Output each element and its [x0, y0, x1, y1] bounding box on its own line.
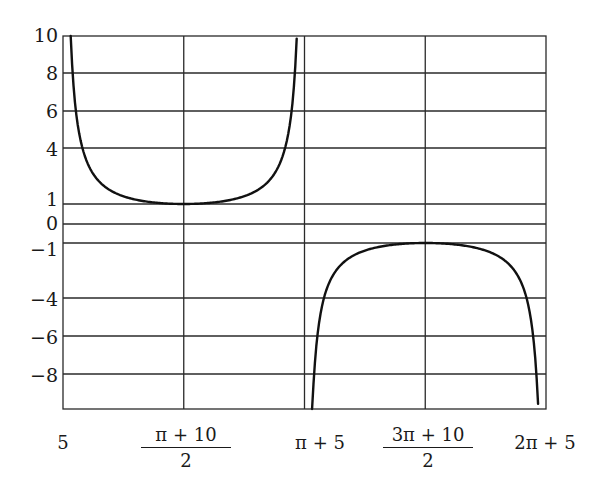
x-tick-label: 5: [51, 434, 75, 452]
y-tick-label: −6: [8, 328, 58, 347]
grid-lines: [63, 36, 546, 409]
x-tick-label: π + 5: [285, 434, 355, 452]
y-tick-label: 8: [8, 64, 58, 83]
y-tick-label: 6: [8, 102, 58, 121]
y-tick-label: 10: [8, 26, 58, 45]
fraction-numerator: π + 10: [141, 426, 231, 448]
y-tick-label: 4: [8, 140, 58, 159]
fraction-numerator: 3π + 10: [383, 426, 473, 448]
y-tick-label: 1: [8, 190, 58, 209]
chart-plot-area: [0, 0, 601, 497]
fraction-denominator: 2: [383, 448, 473, 470]
y-tick-label: 0: [8, 214, 58, 233]
fraction-denominator: 2: [141, 448, 231, 470]
x-tick-label: 2π + 5: [505, 434, 585, 452]
y-tick-label: −8: [8, 366, 58, 385]
x-tick-label-fraction: 3π + 10 2: [383, 426, 473, 470]
y-tick-label: −4: [8, 290, 58, 309]
y-tick-label: −1: [8, 240, 58, 259]
x-tick-label-fraction: π + 10 2: [141, 426, 231, 470]
